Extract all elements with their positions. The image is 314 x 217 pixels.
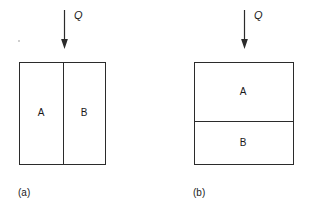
panel-caption-a: (a) xyxy=(18,187,30,198)
flux-label-a: Q xyxy=(74,10,83,21)
region-label-b-A: A xyxy=(240,87,247,97)
panel-b: Q A B (b) xyxy=(157,0,314,217)
region-label-a-A: A xyxy=(38,108,45,118)
interface-divider-a xyxy=(63,62,64,165)
figure-root: Q A B (a) Q A B (b) xyxy=(0,0,314,217)
down-arrow-icon xyxy=(58,9,72,49)
region-label-a-B: B xyxy=(81,108,88,118)
panel-caption-b: (b) xyxy=(193,187,205,198)
interface-divider-b xyxy=(194,121,294,122)
region-label-b-B: B xyxy=(240,138,247,148)
down-arrow-icon xyxy=(238,9,252,49)
panel-a: Q A B (a) xyxy=(0,0,157,217)
page-speck xyxy=(18,40,20,42)
flux-label-b: Q xyxy=(254,10,263,21)
slab-box-b xyxy=(194,62,294,165)
